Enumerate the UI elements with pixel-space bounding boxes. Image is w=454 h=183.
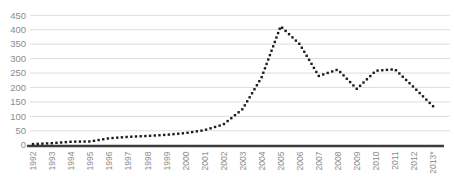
data-dot [116,136,118,138]
data-dot [390,68,392,70]
x-axis-tick-label: 1996 [104,151,114,170]
data-dot [144,135,146,137]
data-dot [429,102,431,104]
data-dot [352,84,354,86]
chart-canvas: 0501001502002503003504004501992199319941… [0,0,454,183]
data-dot [291,36,293,38]
data-dot [79,140,81,142]
data-dot [253,88,255,90]
x-axis-tick-label: 1992 [28,151,38,170]
x-axis-tick-label: 1997 [123,151,133,170]
data-dot [107,137,109,139]
data-dot [318,75,320,77]
data-dot [362,81,364,83]
data-dot [32,143,34,145]
data-dot [267,58,269,60]
y-axis-tick-label: 300 [10,53,26,64]
data-dot [244,104,246,106]
x-axis-tick-label: 2004 [257,151,267,170]
data-dot [366,78,368,80]
data-dot [408,82,410,84]
data-dot [93,140,95,142]
x-axis-tick-label: 2008 [333,151,343,170]
data-dot [102,138,104,140]
data-dot [172,133,174,135]
data-dot [402,76,404,78]
data-dot [256,84,258,86]
data-dot [295,39,297,41]
x-axis-tick-label: 2005 [276,151,286,170]
data-dot [398,72,400,74]
data-dot [121,136,123,138]
data-dot [55,142,57,144]
data-dot [269,54,271,56]
data-dot [315,71,317,73]
data-dot [196,130,198,132]
data-dot [163,134,165,136]
data-dot [415,89,417,91]
data-dot [205,128,207,130]
data-dot [275,36,277,38]
data-dot [284,30,286,32]
data-dot [65,141,67,143]
y-axis-tick-label: 350 [10,38,26,49]
data-dot [274,41,276,43]
data-dot [258,80,260,82]
data-dot [154,134,156,136]
data-dot [177,133,179,135]
data-dot [234,114,236,116]
data-dot [262,72,264,74]
data-dot [327,72,329,74]
data-dot [418,92,420,94]
data-dot [237,111,239,113]
data-dot [381,69,383,71]
data-dot [303,51,305,53]
dotted-line-chart-figure: 0501001502002503003504004501992199319941… [0,0,454,183]
y-axis-tick-label: 400 [10,24,26,35]
data-dot [342,74,344,76]
data-dot [422,95,424,97]
data-dot [346,78,348,80]
y-axis-tick-label: 250 [10,67,26,78]
data-dot [88,140,90,142]
data-dot [412,85,414,87]
data-dot [349,81,351,83]
data-dot [97,139,99,141]
x-axis-tick-label: 2007 [314,151,324,170]
data-dot [135,135,137,137]
data-dot [130,135,132,137]
data-dot [265,63,267,65]
data-dot [251,92,253,94]
data-dot [310,63,312,65]
data-dot [182,132,184,134]
data-dot [69,141,71,143]
data-dot [186,132,188,134]
data-dot [51,142,53,144]
x-axis-tick-label: 2011 [390,151,400,170]
data-dot [241,108,243,110]
data-dot [83,140,85,142]
data-dot [376,69,378,71]
data-dot [41,142,43,144]
data-dot [246,100,248,102]
x-axis-tick-label: 1994 [66,151,76,170]
y-axis-tick-label: 100 [10,111,26,122]
x-axis-tick-label: 2003 [238,151,248,170]
x-axis-tick-label: 1999 [162,151,172,170]
data-dot [191,131,193,133]
data-dot [248,96,250,98]
y-axis-tick-label: 150 [10,96,26,107]
x-axis-tick-label: 2010 [371,151,381,170]
data-dot [308,59,310,61]
data-dot [301,47,303,49]
data-dot [223,123,225,125]
data-dot [288,33,290,35]
data-dot [226,120,228,122]
x-axis-tick-label: 1998 [143,151,153,170]
data-dot [200,129,202,131]
data-dot [432,105,434,107]
data-dot [139,135,141,137]
data-dot [331,70,333,72]
data-dot [356,88,358,90]
data-dot [305,55,307,57]
